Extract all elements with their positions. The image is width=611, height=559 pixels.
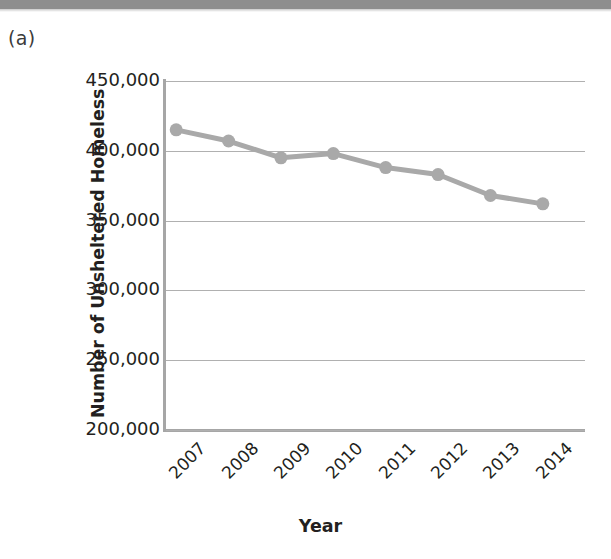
plot-area [166, 81, 585, 430]
x-axis-tick-label: 2013 [479, 438, 524, 483]
gridline [166, 151, 585, 152]
y-axis-tick-label-text: 350,000 [50, 209, 160, 230]
y-axis-tick-label-text: 250,000 [50, 348, 160, 369]
x-axis-tick-label: 2008 [217, 438, 262, 483]
scan-edge-bar [0, 0, 611, 9]
y-axis-tick-label-text: 300,000 [50, 278, 160, 299]
x-axis-title: Year [0, 516, 611, 536]
y-axis-tick-label-text: 450,000 [50, 69, 160, 90]
y-axis-tick-label-text: 200,000 [50, 418, 160, 439]
gridline [166, 81, 585, 82]
x-axis-tick-label: 2011 [374, 438, 419, 483]
gridline [166, 290, 585, 291]
x-axis-title-text: Year [299, 516, 342, 536]
gridline [166, 430, 585, 431]
x-axis-tick-label: 2007 [165, 438, 210, 483]
gridline [166, 360, 585, 361]
panel-label: (a) [8, 27, 35, 49]
gridline [166, 221, 585, 222]
x-axis-tick-label: 2009 [270, 438, 315, 483]
scan-edge-fade [0, 9, 611, 12]
x-axis-tick-label: 2012 [427, 438, 472, 483]
y-axis-tick-label-text: 400,000 [50, 139, 160, 160]
figure-panel-a: (a) Number of Unsheltered Homeless 200,0… [0, 0, 611, 559]
x-axis-tick-label: 2010 [322, 438, 367, 483]
x-axis-tick-label: 2014 [531, 438, 576, 483]
